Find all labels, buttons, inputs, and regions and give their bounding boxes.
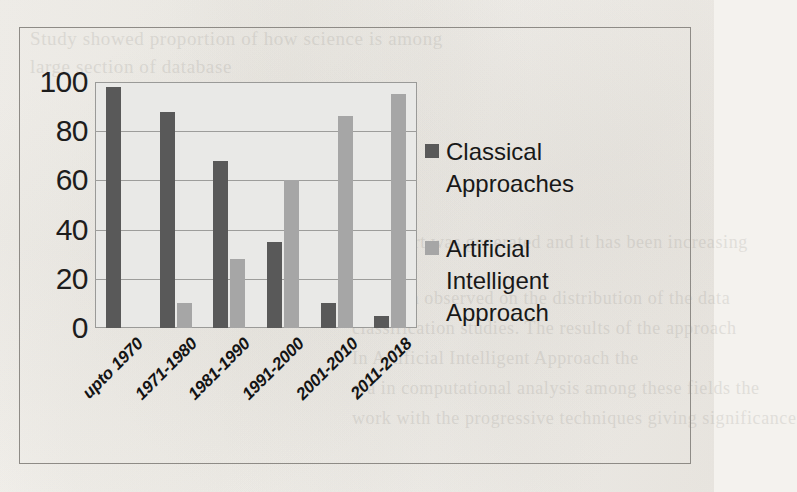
legend-entry[interactable]: Classical Approaches bbox=[425, 136, 675, 199]
bar-chart: 100806040200 upto 19701971-19801981-1990… bbox=[20, 28, 690, 463]
legend-entry[interactable]: Artificial Intelligent Approach bbox=[425, 233, 675, 328]
bar[interactable] bbox=[177, 303, 192, 328]
bar[interactable] bbox=[160, 112, 175, 328]
bar[interactable] bbox=[321, 303, 336, 328]
bar-group bbox=[95, 82, 149, 328]
bar-group bbox=[256, 82, 310, 328]
chart-figure-frame: 100806040200 upto 19701971-19801981-1990… bbox=[19, 27, 691, 464]
y-axis-tick-label: 20 bbox=[56, 264, 88, 294]
legend-swatch-ai bbox=[425, 241, 439, 255]
bar-group bbox=[310, 82, 364, 328]
chart-legend: Classical ApproachesArtificial Intellige… bbox=[425, 136, 675, 362]
bar[interactable] bbox=[374, 316, 389, 328]
bar[interactable] bbox=[267, 242, 282, 328]
bars-layer bbox=[95, 82, 417, 328]
legend-label: Classical Approaches bbox=[446, 136, 606, 199]
bar[interactable] bbox=[391, 94, 406, 328]
bar[interactable] bbox=[106, 87, 121, 328]
y-axis-tick-label: 60 bbox=[56, 165, 88, 195]
bar-group bbox=[149, 82, 203, 328]
y-axis-tick-label: 0 bbox=[72, 313, 88, 343]
bar-group bbox=[202, 82, 256, 328]
y-axis-tick-label: 100 bbox=[39, 67, 88, 97]
legend-swatch-classical bbox=[425, 144, 439, 158]
y-axis-tick-label: 40 bbox=[56, 215, 88, 245]
bar[interactable] bbox=[230, 259, 245, 328]
bar[interactable] bbox=[284, 180, 299, 328]
y-axis: 100806040200 bbox=[20, 28, 88, 463]
bar[interactable] bbox=[213, 161, 228, 328]
plot-area bbox=[95, 82, 417, 328]
y-axis-tick-label: 80 bbox=[56, 116, 88, 146]
bar-group bbox=[363, 82, 417, 328]
x-axis: upto 19701971-19801981-19901991-20002001… bbox=[95, 330, 417, 460]
legend-label: Artificial Intelligent Approach bbox=[446, 233, 606, 328]
bar[interactable] bbox=[338, 116, 353, 328]
